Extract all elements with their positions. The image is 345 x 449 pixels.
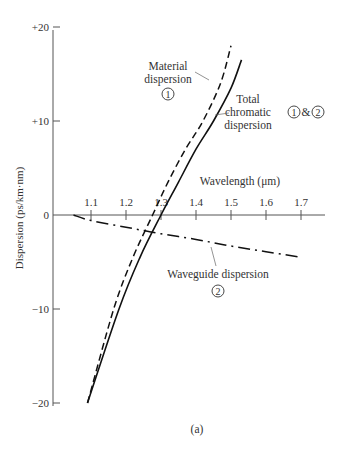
x-axis-label: Wavelength (μm): [200, 175, 280, 188]
svg-text:1: 1: [166, 89, 171, 100]
x-ticks: 1.11.21.31.41.51.61.7: [84, 196, 308, 220]
material-annotation: Material dispersion 1: [144, 60, 209, 100]
y-tick-label: −10: [32, 303, 50, 315]
x-tick-label: 1.4: [189, 196, 203, 208]
y-tick-label: 0: [44, 209, 50, 221]
svg-text:chromatic: chromatic: [225, 106, 271, 118]
svg-text:dispersion: dispersion: [144, 73, 192, 86]
y-tick-label: +20: [32, 21, 50, 33]
material-leader: [195, 72, 209, 80]
total-annotation: Total chromatic dispersion 1 & 2: [215, 93, 324, 132]
x-tick-label: 1.2: [119, 196, 133, 208]
material-dispersion-curve: [88, 46, 232, 403]
x-tick-label: 1.6: [259, 196, 273, 208]
svg-text:&: &: [302, 106, 311, 118]
svg-text:Total: Total: [236, 93, 259, 105]
waveguide-leader: [211, 247, 216, 266]
total-chromatic-dispersion-curve: [88, 60, 242, 403]
svg-text:dispersion: dispersion: [224, 119, 272, 132]
svg-text:2: 2: [216, 286, 221, 297]
series-group: [74, 46, 302, 403]
x-tick-label: 1.7: [294, 196, 308, 208]
svg-text:Material: Material: [149, 60, 188, 72]
y-axis-label: Dispersion (ps/km·nm): [13, 166, 26, 269]
dispersion-chart: +20+100−10−20 1.11.21.31.41.51.61.7 Disp…: [0, 0, 345, 449]
y-tick-label: +10: [32, 115, 50, 127]
svg-text:2: 2: [316, 107, 321, 118]
x-tick-label: 1.5: [224, 196, 238, 208]
svg-text:1: 1: [292, 107, 297, 118]
figure-caption: (a): [191, 423, 204, 436]
waveguide-annotation: Waveguide dispersion 2: [167, 247, 269, 297]
x-tick-label: 1.1: [84, 196, 98, 208]
svg-text:Waveguide dispersion: Waveguide dispersion: [167, 268, 269, 281]
waveguide-dispersion-curve: [74, 215, 302, 257]
y-tick-label: −20: [32, 397, 50, 409]
